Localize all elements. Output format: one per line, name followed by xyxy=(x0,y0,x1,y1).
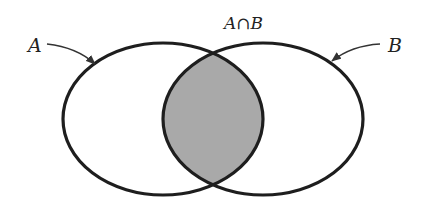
arrow-b xyxy=(332,44,380,61)
label-b: B xyxy=(387,34,402,56)
label-intersection: A∩B xyxy=(222,13,263,33)
venn-diagram: A B A∩B xyxy=(0,0,434,205)
label-a: A xyxy=(26,34,42,56)
arrow-a xyxy=(47,44,95,64)
